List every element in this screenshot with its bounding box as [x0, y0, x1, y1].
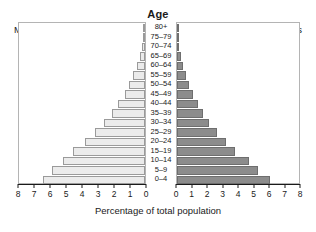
axis-tick	[34, 184, 35, 188]
females-bar-row	[177, 99, 299, 109]
axis-tick	[284, 184, 285, 188]
females-bar	[177, 33, 179, 42]
axis-tick-label: 3	[220, 189, 225, 199]
males-bar	[140, 52, 145, 61]
axis-tick-label: 4	[236, 189, 241, 199]
males-bar-row	[19, 61, 145, 71]
females-bar-row	[177, 166, 299, 176]
axis-tick	[238, 184, 239, 188]
axis-tick-label: 1	[189, 189, 194, 199]
females-bar	[177, 119, 209, 128]
males-bar-row	[19, 156, 145, 166]
males-bar	[143, 24, 145, 33]
males-bar-row	[19, 147, 145, 157]
males-bar-row	[19, 99, 145, 109]
males-bar-row	[19, 118, 145, 128]
axis-tick-label: 6	[48, 189, 53, 199]
age-group-label: 40–44	[146, 98, 176, 108]
males-bar-row	[19, 52, 145, 62]
females-bar	[177, 166, 258, 175]
age-group-label: 20–24	[146, 136, 176, 146]
males-bar-row	[19, 23, 145, 33]
axis-tick	[222, 184, 223, 188]
chart-title: Age	[0, 8, 316, 20]
axis-tick-label: 5	[64, 189, 69, 199]
females-bar	[177, 176, 270, 185]
males-bar	[125, 90, 145, 99]
axis-tick	[114, 184, 115, 188]
females-bar	[177, 109, 203, 118]
axis-tick-label: 4	[80, 189, 85, 199]
females-bar	[177, 71, 186, 80]
axis-tick	[18, 184, 19, 188]
age-group-label: 60–64	[146, 60, 176, 70]
age-group-label: 25–29	[146, 127, 176, 137]
males-bar	[85, 138, 145, 147]
age-group-label: 50–54	[146, 79, 176, 89]
females-bar-row	[177, 23, 299, 33]
males-bar	[104, 119, 145, 128]
x-axis-title: Percentage of total population	[0, 205, 316, 216]
females-bar	[177, 24, 179, 33]
age-group-label: 65–69	[146, 51, 176, 61]
females-bar	[177, 90, 193, 99]
males-bar	[52, 166, 145, 175]
males-bar-row	[19, 128, 145, 138]
axis-tick	[50, 184, 51, 188]
axis-tick-label: 0	[174, 189, 179, 199]
females-bar-row	[177, 71, 299, 81]
axis-tick	[66, 184, 67, 188]
females-bar-row	[177, 109, 299, 119]
females-bar-row	[177, 33, 299, 43]
males-bar-rows	[19, 23, 145, 183]
axis-tick	[130, 184, 131, 188]
axis-tick	[176, 184, 177, 188]
age-group-label: 5–9	[146, 165, 176, 175]
axis-tick-label: 8	[16, 189, 21, 199]
axis-tick	[191, 184, 192, 188]
males-bar-row	[19, 166, 145, 176]
age-group-label: 55–59	[146, 70, 176, 80]
axis-tick-label: 0	[144, 189, 149, 199]
males-bar	[133, 71, 145, 80]
axis-tick-label: 5	[251, 189, 256, 199]
males-bar	[95, 128, 145, 137]
axis-tick	[146, 184, 147, 188]
females-bar-row	[177, 42, 299, 52]
axis-tick-label: 7	[32, 189, 37, 199]
males-bar	[142, 43, 145, 52]
females-bar	[177, 128, 217, 137]
females-bar	[177, 147, 235, 156]
males-bar	[137, 62, 145, 71]
age-group-label: 45–49	[146, 89, 176, 99]
males-bar	[112, 109, 145, 118]
females-bar	[177, 43, 179, 52]
age-group-labels: 80+75–7970–7465–6960–6455–5950–5445–4940…	[146, 22, 176, 184]
females-x-axis: 012345678	[176, 184, 300, 202]
axis-tick-label: 3	[96, 189, 101, 199]
males-bar	[118, 100, 145, 109]
females-bar-row	[177, 156, 299, 166]
females-bar-row	[177, 90, 299, 100]
age-group-label: 70–74	[146, 41, 176, 51]
axis-tick-label: 1	[128, 189, 133, 199]
females-bar-row	[177, 147, 299, 157]
age-group-label: 75–79	[146, 32, 176, 42]
females-bar	[177, 157, 249, 166]
axis-tick	[269, 184, 270, 188]
females-bar-row	[177, 118, 299, 128]
axis-tick	[253, 184, 254, 188]
females-bar	[177, 81, 189, 90]
axis-tick	[207, 184, 208, 188]
males-plot-panel	[18, 22, 146, 184]
males-bar-row	[19, 33, 145, 43]
age-group-label: 10–14	[146, 155, 176, 165]
females-bar	[177, 52, 181, 61]
males-bar	[129, 81, 145, 90]
population-pyramid-chart: Age Males Females 80+75–7970–7465–6960–6…	[0, 0, 316, 232]
males-x-axis: 876543210	[18, 184, 146, 202]
females-bar-row	[177, 61, 299, 71]
females-bar-row	[177, 52, 299, 62]
males-bar	[43, 176, 145, 185]
females-bar-rows	[177, 23, 299, 183]
